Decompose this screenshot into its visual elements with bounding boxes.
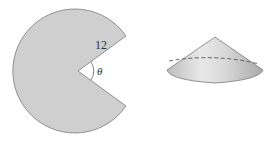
sector-shape [13,9,126,133]
cone [167,37,263,83]
radius-label: 12 [95,38,107,52]
figure-canvas: 12 θ [0,0,275,141]
cone-surface [167,37,263,83]
angle-label: θ [97,65,103,77]
angle-arc [91,62,94,80]
circular-sector: 12 θ [13,9,126,133]
